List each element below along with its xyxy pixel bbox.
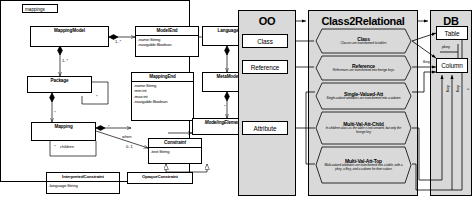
db-element-Table[interactable]: Table (436, 26, 468, 40)
uml-class-name: Package (28, 77, 91, 85)
uml-multiplicity: * (108, 124, 110, 129)
uml-class-attributes: -name:String -navigable:Boolean (136, 35, 198, 49)
rule-description: Multi-valued attributes are transformed … (315, 164, 412, 171)
uml-class-MappingModel[interactable]: MappingModel (30, 26, 109, 47)
db-element-label: Table (445, 30, 460, 37)
uml-class-name: MappingModel (31, 27, 108, 35)
rule-multi-val-att-top[interactable]: Multi-Val-Att-Top Multi-valued attribute… (315, 146, 412, 184)
oo-element-Attribute[interactable]: Attribute (242, 121, 288, 135)
uml-multiplicity: 1..* (62, 58, 68, 63)
rule-multi-val-att-child[interactable]: Multi-Val-Att-Child In children class as… (315, 111, 412, 145)
oo-element-Reference[interactable]: Reference (242, 60, 288, 74)
oo-element-label: Reference (251, 64, 280, 71)
uml-multiplicity: * (54, 144, 56, 149)
uml-class-name: OpaqueConstraint (128, 173, 192, 181)
uml-attribute: -navigable:Boolean (134, 99, 192, 104)
uml-role-when: when (122, 134, 132, 139)
uml-multiplicity: * (96, 94, 98, 99)
screenshot-root: mappings (0, 0, 474, 202)
uml-class-Package[interactable]: Package (27, 76, 92, 93)
uml-class-attributes: -name:String -min:int -max:int -navigabl… (132, 81, 193, 106)
uml-class-Constraint[interactable]: Constraint -text:String (148, 138, 202, 164)
rule-description: Single-valued attributes are transformed… (321, 97, 407, 101)
uml-multiplicity: 0..1 (126, 144, 133, 149)
uml-class-ModelEnd[interactable]: ModelEnd -name:String -navigable:Boolean (135, 26, 199, 57)
rule-description: Classes are transformed to tables (334, 42, 392, 46)
db-element-Column[interactable]: Column (436, 58, 468, 73)
uml-class-Mapping[interactable]: Mapping (31, 122, 96, 141)
uml-class-name: Mapping (32, 123, 95, 131)
uml-class-name: ModelEnd (136, 27, 198, 35)
uml-class-OpaqueConstraint[interactable]: OpaqueConstraint (127, 172, 193, 184)
rule-reference[interactable]: Reference References are transformed int… (315, 55, 412, 81)
oo-element-Class[interactable]: Class (242, 34, 288, 48)
uml-class-name: Constraint (149, 139, 201, 147)
db-edge-label-fkey-2: fkey (446, 85, 450, 92)
rule-description: In children class as the table is not cr… (315, 127, 412, 134)
uml-class-diagram-panel: mappings (0, 0, 228, 202)
uml-class-name: InterpretedConstraint (47, 173, 119, 181)
db-edge-label-fkey-3: fkey (456, 85, 460, 92)
uml-class-InterpretedConstraint[interactable]: InterpretedConstraint -language:String (46, 172, 120, 194)
uml-multiplicity: * (54, 110, 56, 115)
rule-single-valued-att[interactable]: Single-Valued-Att Single-valued attribut… (315, 82, 412, 110)
transformation-diagram-panel: OO Class2Relational DB (236, 0, 474, 202)
rule-description: References are transformed into foreign … (327, 69, 401, 73)
db-element-label: Column (441, 62, 462, 69)
oo-element-label: Class (257, 38, 272, 45)
oo-element-label: Attribute (254, 125, 277, 132)
db-edge-label-fkey: fkey (423, 60, 430, 64)
uml-class-MappingEnd[interactable]: MappingEnd -name:String -min:int -max:in… (131, 72, 194, 121)
uml-attribute: -language:String (49, 183, 118, 188)
db-edge-label-c: c (466, 88, 470, 90)
uml-class-attributes: -text:String (149, 147, 201, 155)
uml-attribute: -text:String (151, 149, 200, 154)
uml-multiplicity: * (224, 104, 226, 109)
rule-class[interactable]: Class Classes are transformed to tables (315, 28, 412, 54)
uml-class-attributes: -language:String (47, 181, 119, 189)
uml-attribute: -navigable:Boolean (138, 42, 197, 47)
uml-role-children: children (60, 144, 74, 149)
db-edge-label-pkey: pkey (442, 45, 450, 49)
uml-class-name: MappingEnd (132, 73, 193, 81)
uml-multiplicity: 1..* (115, 39, 121, 44)
